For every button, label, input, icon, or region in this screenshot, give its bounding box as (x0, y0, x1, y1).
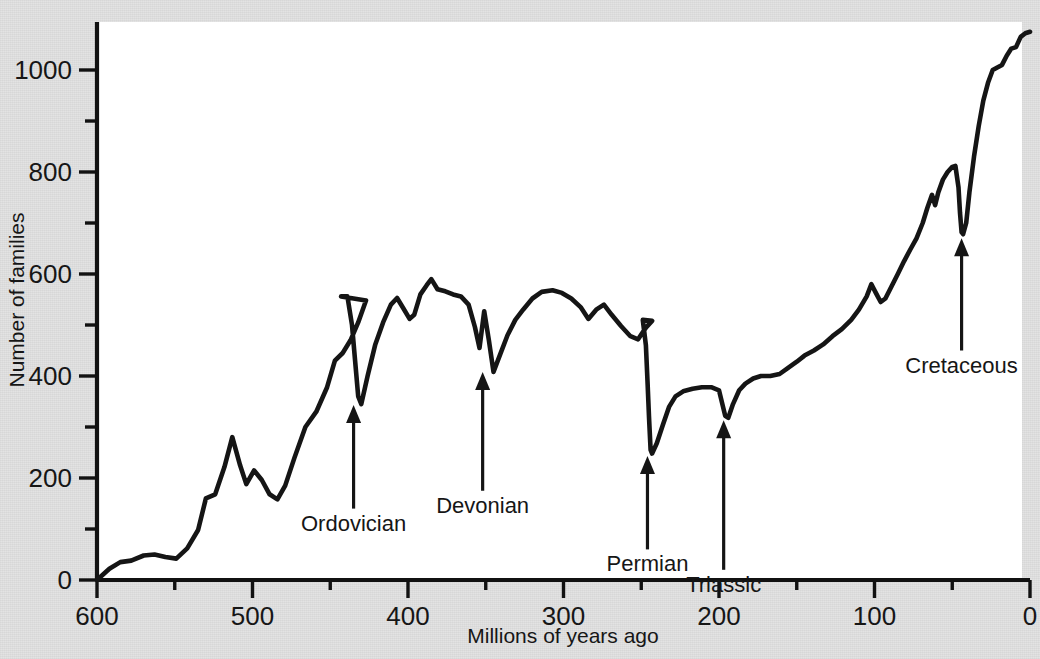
x-tick-label: 200 (697, 601, 740, 631)
x-tick-label: 500 (231, 601, 274, 631)
annotation-label: Triassic (686, 572, 761, 597)
y-tick-label: 400 (29, 361, 72, 391)
extinction-chart-figure: 02004006008001000 6005004003002001000 Or… (0, 0, 1040, 659)
annotation-label: Permian (607, 551, 689, 576)
x-tick-label: 400 (386, 601, 429, 631)
y-tick-label: 0 (58, 565, 72, 595)
x-tick-label: 600 (75, 601, 118, 631)
y-tick-label: 1000 (14, 55, 72, 85)
chart-svg: 02004006008001000 6005004003002001000 Or… (0, 0, 1040, 659)
y-tick-label: 600 (29, 259, 72, 289)
x-axis-title: Millions of years ago (467, 624, 658, 647)
annotation-label: Devonian (436, 493, 529, 518)
x-tick-label: 100 (853, 601, 896, 631)
y-tick-label: 800 (29, 157, 72, 187)
x-axis-ticks (97, 580, 1030, 598)
y-axis-ticks (79, 70, 97, 580)
y-tick-label: 200 (29, 463, 72, 493)
y-axis-title: Number of families (5, 212, 28, 387)
x-tick-label: 0 (1023, 601, 1037, 631)
annotation-label: Cretaceous (905, 353, 1018, 378)
annotation-label: Ordovician (301, 511, 406, 536)
